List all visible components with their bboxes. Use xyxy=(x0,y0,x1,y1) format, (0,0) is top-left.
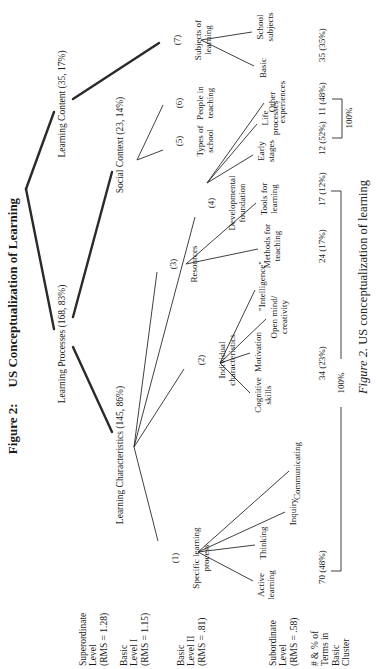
node-learning-processes: Learning Processes (168, 83%) xyxy=(57,264,68,424)
level-label-basic-1: Basic Level I (RMS = 1.15) xyxy=(119,576,150,666)
bracket-label-2: 100% xyxy=(344,90,354,146)
node-learning-characteristics: Learning Characteristics (145, 86%) xyxy=(115,375,126,535)
figure-caption: Figure 2. US conceptualization of learni… xyxy=(356,137,371,437)
edge-processes-social-context xyxy=(73,172,112,317)
level-label-superordinate: Superordinate Level (RMS = 1.28) xyxy=(78,576,109,666)
leaf-other-experiences: Other experiences xyxy=(267,67,288,137)
cluster-1-number: (1) xyxy=(170,508,180,608)
edge-root-learning-content xyxy=(26,112,54,189)
leaf-motivation: Motivation xyxy=(253,322,263,382)
node-social-context: Social Context (23, 14%) xyxy=(115,85,126,205)
edge-characteristics-cluster1 xyxy=(134,447,158,541)
edge-characteristics-cluster3 xyxy=(134,272,157,447)
leaf-open-mind: Open mind/ creativity xyxy=(269,282,290,352)
figure-title-prefix: Figure 2: xyxy=(5,403,20,454)
count-cluster-1: 70 (48%) xyxy=(317,532,327,602)
cluster-4-label: Developmental foundation xyxy=(227,153,248,253)
figure-title: Figure 2:US Conceptualization of Learnin… xyxy=(5,161,21,491)
edge-root-learning-processes xyxy=(26,189,54,329)
figure-canvas: Figure 2:US Conceptualization of Learnin… xyxy=(0,0,382,669)
cluster-7-number: (7) xyxy=(172,5,182,75)
bracket-clusters-5-6 xyxy=(332,99,342,138)
cluster-6-label: People in teaching xyxy=(195,68,216,138)
cluster-2-label: Individual characteristics xyxy=(217,310,238,410)
scanned-figure-page: Figure 2:US Conceptualization of Learnin… xyxy=(0,0,382,669)
cluster-6-number: (6) xyxy=(174,68,184,138)
count-cluster-7: 35 (35%) xyxy=(317,10,327,80)
leaf-communicating: Communicating xyxy=(292,431,302,511)
cluster-1: (1) Specific learning process xyxy=(160,508,222,608)
edge-characteristics-cluster2 xyxy=(134,369,184,447)
cluster-2: (2) Individual characteristics xyxy=(186,310,248,410)
cluster-1-label: Specific learning process xyxy=(191,508,212,608)
figure-caption-text: US conceptualization of learning xyxy=(356,180,370,345)
leaf-school-subjects: School subjects xyxy=(255,0,276,62)
node-learning-content: Learning Content (35, 17%) xyxy=(57,24,68,184)
count-cluster-2: 34 (23%) xyxy=(317,328,327,398)
cluster-7-label: Subjects of learning xyxy=(193,5,214,75)
leaf-thinking: Thinking xyxy=(258,513,268,573)
cluster-3-number: (3) xyxy=(168,234,178,294)
figure-title-text: US Conceptualization of Learning xyxy=(5,198,20,388)
cluster-6: (6) People in teaching xyxy=(164,68,226,138)
figure-caption-prefix: Figure 2. xyxy=(356,348,370,394)
bracket-label-1: 100% xyxy=(336,359,346,407)
cluster-7: (7) Subjects of learning xyxy=(162,5,224,75)
cluster-2-number: (2) xyxy=(196,310,206,410)
edge-processes-characteristics xyxy=(73,347,112,432)
